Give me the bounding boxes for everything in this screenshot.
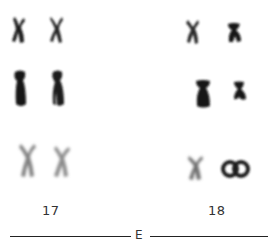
chromosome-18-row3-a [185, 153, 207, 185]
group-bracket-left [10, 236, 131, 237]
group-label-E: E [135, 228, 143, 242]
chromosome-17-row3-a [17, 141, 39, 183]
chromosome-18-row2-a [193, 78, 213, 112]
chromosome-18-row2-b [230, 80, 250, 106]
chromosome-18-row1-a [183, 17, 203, 49]
chromosome-17-row1-b [47, 14, 67, 48]
chromosome-17-row1-a [9, 14, 29, 48]
group-bracket-right [150, 236, 268, 237]
chromosome-18-row1-b [225, 21, 245, 47]
pair-label-17: 17 [42, 203, 60, 218]
chromosome-17-row2-a [10, 68, 30, 110]
chromosome-18-row3-ring [221, 158, 251, 180]
chromosome-17-row3-b [51, 143, 73, 183]
pair-label-18: 18 [208, 203, 226, 218]
chromosome-17-row2-b [48, 68, 68, 110]
